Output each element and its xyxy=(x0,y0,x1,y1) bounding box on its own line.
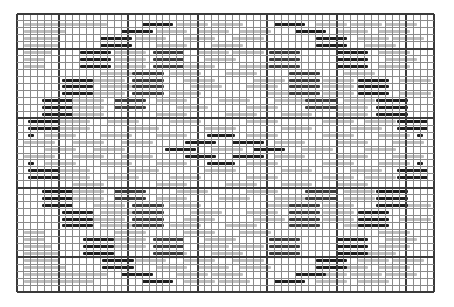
grid-line xyxy=(17,250,434,251)
stitch-dark xyxy=(62,92,93,95)
stitch-light xyxy=(24,58,45,61)
grid-line xyxy=(17,69,434,70)
grid-line xyxy=(17,111,434,112)
stitch-light xyxy=(24,238,45,241)
stitch-dark xyxy=(83,252,114,255)
grid-line xyxy=(17,194,434,195)
grid-line xyxy=(17,55,434,56)
grid-line xyxy=(17,264,434,265)
stitch-dark xyxy=(62,79,93,82)
stitch-mid xyxy=(305,197,336,200)
stitch-mid xyxy=(153,238,184,241)
stitch-mid xyxy=(305,106,336,109)
stitch-dark xyxy=(83,245,114,248)
stitch-mid xyxy=(305,190,336,193)
grid-line xyxy=(17,20,434,21)
grid-line-thick xyxy=(17,117,434,119)
grid-line-thick xyxy=(17,187,434,189)
grid-line-thick xyxy=(17,291,434,293)
grid-line xyxy=(17,229,434,230)
grid-line xyxy=(17,222,434,223)
stitch-dark xyxy=(83,238,114,241)
pattern-chart-grid xyxy=(17,14,434,292)
stitch-mid xyxy=(305,99,336,102)
grid-line xyxy=(17,90,434,91)
grid-line xyxy=(17,153,434,154)
grid-line xyxy=(17,97,434,98)
grid-line xyxy=(17,83,434,84)
grid-line xyxy=(17,201,434,202)
stitch-dark xyxy=(62,218,93,221)
grid-line-thick xyxy=(17,256,434,258)
grid-line-thick xyxy=(17,48,434,50)
stitch-dark xyxy=(62,211,93,214)
grid-line xyxy=(17,146,434,147)
grid-line xyxy=(17,278,434,279)
grid-line xyxy=(17,243,434,244)
grid-line xyxy=(17,180,434,181)
grid-line xyxy=(17,76,434,77)
grid-line xyxy=(17,236,434,237)
stitch-mid xyxy=(153,51,184,54)
stitch-light xyxy=(24,44,59,47)
grid-line xyxy=(17,173,434,174)
stitch-light xyxy=(24,65,45,68)
grid-line xyxy=(17,62,434,63)
stitch-light xyxy=(24,37,59,40)
grid-line xyxy=(17,159,434,160)
grid-line xyxy=(17,166,434,167)
grid-line-thick xyxy=(17,13,434,15)
stitch-dark xyxy=(62,224,93,227)
grid-line xyxy=(17,271,434,272)
grid-line xyxy=(17,125,434,126)
stitch-dark xyxy=(62,85,93,88)
grid-line xyxy=(17,27,434,28)
stitch-light xyxy=(76,273,107,276)
stitch-light xyxy=(24,259,59,262)
stitch-light xyxy=(24,231,45,234)
stitch-mid xyxy=(153,252,184,255)
stitch-light xyxy=(76,23,107,26)
grid-line xyxy=(17,208,434,209)
stitch-light xyxy=(24,252,59,255)
stitch-mid xyxy=(153,58,184,61)
grid-line xyxy=(17,34,434,35)
stitch-mid xyxy=(153,65,184,68)
grid-line xyxy=(17,41,434,42)
grid-line xyxy=(17,132,434,133)
grid-line xyxy=(17,104,434,105)
grid-line xyxy=(17,139,434,140)
stitch-mid xyxy=(153,245,184,248)
grid-line xyxy=(17,215,434,216)
grid-line xyxy=(17,285,434,286)
